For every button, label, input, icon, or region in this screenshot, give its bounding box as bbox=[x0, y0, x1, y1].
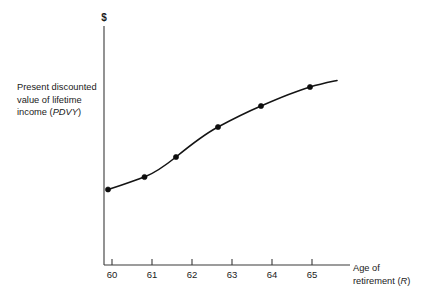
x-tick-label-64: 64 bbox=[267, 269, 278, 280]
x-tick-label-61: 61 bbox=[147, 269, 158, 280]
x-tick-label-63: 63 bbox=[227, 269, 238, 280]
y-axis-label-line-1: Present discounted bbox=[17, 81, 97, 94]
x-axis-label-line-2-prefix: retirement ( bbox=[353, 276, 401, 286]
pdvy-curve bbox=[108, 81, 337, 190]
x-axis-ticks bbox=[112, 259, 312, 265]
data-point-markers bbox=[105, 84, 312, 192]
x-tick-label-62: 62 bbox=[187, 269, 198, 280]
pdvy-line-chart: 60 61 62 63 64 65 $ bbox=[0, 0, 432, 302]
x-tick-label-60: 60 bbox=[107, 269, 118, 280]
y-axis-label: Present discounted value of lifetime inc… bbox=[17, 81, 97, 119]
data-point-1 bbox=[105, 187, 110, 192]
y-axis-currency-symbol: $ bbox=[101, 12, 107, 23]
x-tick-label-65: 65 bbox=[307, 269, 318, 280]
x-axis-label: Age of retirement (R) bbox=[353, 262, 410, 287]
y-axis-label-line-3: income (PDVY) bbox=[17, 106, 97, 119]
data-point-4 bbox=[215, 124, 220, 129]
x-axis-tick-labels: 60 61 62 63 64 65 bbox=[107, 269, 318, 280]
data-point-3 bbox=[173, 154, 178, 159]
data-point-2 bbox=[142, 174, 147, 179]
y-axis-label-variable-pdvy: PDVY bbox=[53, 107, 78, 117]
chart-figure: 60 61 62 63 64 65 $ Present discounted v… bbox=[0, 0, 432, 302]
y-axis-label-line-3-prefix: income ( bbox=[17, 107, 53, 117]
x-axis-label-line-2-suffix: ) bbox=[407, 276, 410, 286]
y-axis-label-line-2: value of lifetime bbox=[17, 94, 97, 107]
x-axis-label-line-2: retirement (R) bbox=[353, 275, 410, 288]
y-axis-label-line-3-suffix: ) bbox=[78, 107, 81, 117]
data-point-6 bbox=[307, 84, 312, 89]
x-axis-label-line-1: Age of bbox=[353, 262, 410, 275]
data-point-5 bbox=[258, 103, 263, 108]
